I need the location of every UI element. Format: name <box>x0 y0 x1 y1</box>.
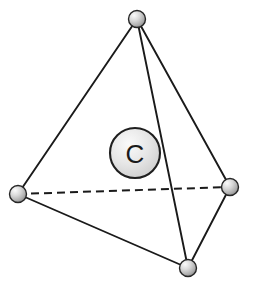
tetrahedron-figure: C <box>0 0 253 295</box>
edge-left-right-dashed <box>18 187 230 194</box>
center-atom-group: C <box>110 128 160 178</box>
vertex-right <box>222 179 239 196</box>
vertex-left <box>10 186 27 203</box>
tetrahedron-canvas: C <box>0 0 253 295</box>
vertex-bottom <box>180 260 197 277</box>
edges-behind-center-group <box>18 187 230 194</box>
vertex-top <box>129 11 146 28</box>
edge-left-bottom <box>18 194 188 268</box>
center-atom-label: C <box>126 139 145 169</box>
edge-bottom-right <box>188 187 230 268</box>
